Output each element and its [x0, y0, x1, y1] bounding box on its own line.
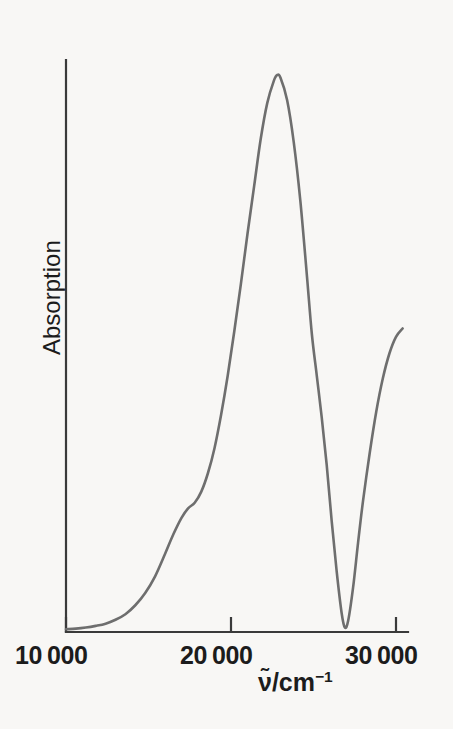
x-axis-label-text: ν̃/cm: [258, 668, 315, 696]
plot-canvas: [0, 0, 453, 729]
absorption-spectrum-figure: 10 000 20 000 30 000 ν̃/cm−1 Absorption: [0, 0, 453, 729]
absorption-curve: [66, 75, 403, 630]
x-axis-label: ν̃/cm−1: [258, 668, 333, 697]
x-tick-label-10000: 10 000: [15, 641, 88, 670]
x-tick-label-30000: 30 000: [345, 641, 418, 670]
x-tick-label-20000: 20 000: [180, 641, 253, 670]
y-axis-label: Absorption: [38, 240, 66, 355]
x-axis-label-exponent: −1: [315, 668, 333, 685]
